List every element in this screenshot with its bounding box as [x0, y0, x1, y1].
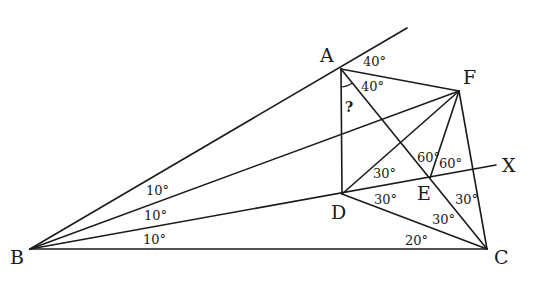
- angle-label-d-lower: 30°: [374, 192, 397, 207]
- line-b-a-extended: [30, 28, 407, 249]
- point-label-b: B: [10, 246, 24, 268]
- angle-label-c-fc: 30°: [455, 192, 478, 207]
- point-label-d: D: [331, 201, 346, 223]
- angle-label-a-fac: 40°: [361, 79, 384, 94]
- point-label-e: E: [417, 182, 431, 204]
- angle-label-e-left: 60°: [417, 150, 440, 165]
- geometry-diagram: A B C D E F X 40° 40° ? 10° 10° 10° 30° …: [0, 0, 544, 299]
- angle-label-d-upper: 30°: [373, 166, 396, 181]
- line-a-f: [341, 69, 459, 91]
- angle-label-b-top: 10°: [146, 183, 169, 198]
- point-label-x: X: [502, 154, 516, 176]
- line-f-c: [459, 91, 487, 249]
- unknown-angle-label: ?: [345, 99, 353, 115]
- angle-label-a-exterior: 40°: [363, 54, 386, 69]
- angle-label-b-mid: 10°: [144, 208, 167, 223]
- line-a-d: [341, 69, 342, 194]
- point-label-f: F: [463, 66, 476, 88]
- point-label-a: A: [319, 44, 334, 66]
- angle-label-c-dc: 30°: [432, 212, 455, 227]
- angle-label-b-low: 10°: [143, 232, 166, 247]
- angle-label-c-bc: 20°: [405, 233, 428, 248]
- unknown-angle-arc: [341, 83, 352, 87]
- angle-label-e-right: 60°: [439, 156, 462, 171]
- point-label-c: C: [494, 246, 509, 268]
